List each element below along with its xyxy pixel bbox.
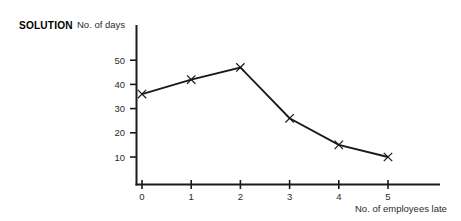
series-line (142, 67, 388, 157)
x-tick-label: 4 (336, 191, 341, 202)
x-tick-label: 0 (139, 191, 144, 202)
y-tick-label: 10 (114, 152, 125, 163)
y-tick-label: 30 (114, 103, 125, 114)
x-tick-label: 5 (385, 191, 390, 202)
y-tick-label: 50 (114, 55, 125, 66)
x-tick-label: 3 (287, 191, 292, 202)
data-series (138, 63, 392, 161)
data-point-marker (285, 114, 293, 122)
x-axis-ticks: 012345 (139, 180, 390, 202)
line-chart-plot: 1020304050 012345 (0, 0, 461, 221)
x-tick-label: 1 (189, 191, 194, 202)
figure-container: SOLUTION No. of days No. of employees la… (0, 0, 461, 221)
x-tick-label: 2 (238, 191, 243, 202)
chart-axes (136, 25, 441, 186)
y-axis-ticks: 1020304050 (114, 55, 137, 163)
y-tick-label: 20 (114, 127, 125, 138)
y-tick-label: 40 (114, 79, 125, 90)
